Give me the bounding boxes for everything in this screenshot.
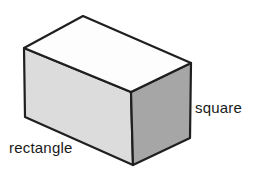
side-face-label: square	[195, 99, 242, 117]
diagram-canvas: rectangle square	[0, 0, 255, 175]
front-face-label: rectangle	[9, 139, 73, 157]
